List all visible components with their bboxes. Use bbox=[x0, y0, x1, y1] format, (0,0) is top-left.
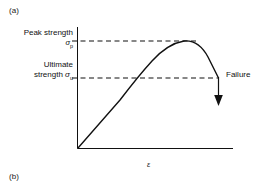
stress-strain-curve bbox=[78, 41, 218, 148]
peak-strength-label: Peak strength bbox=[11, 28, 73, 38]
failure-label: Failure bbox=[226, 70, 250, 80]
stress-strain-figure: (a) Peak strength σp Ultimate strength σ… bbox=[0, 0, 275, 189]
ultimate-strength-label-line2: strength σu bbox=[5, 70, 73, 83]
peak-strength-symbol: σp bbox=[11, 38, 73, 51]
ultimate-strength-label-line1: Ultimate bbox=[5, 60, 73, 70]
sigma-p-subscript: p bbox=[70, 43, 73, 49]
x-axis-label: ε bbox=[147, 160, 150, 170]
failure-arrow-head bbox=[214, 95, 223, 106]
sigma-u-subscript: u bbox=[70, 75, 73, 81]
panel-b-label: (b) bbox=[9, 172, 19, 181]
ultimate-strength-word: strength bbox=[34, 70, 63, 79]
